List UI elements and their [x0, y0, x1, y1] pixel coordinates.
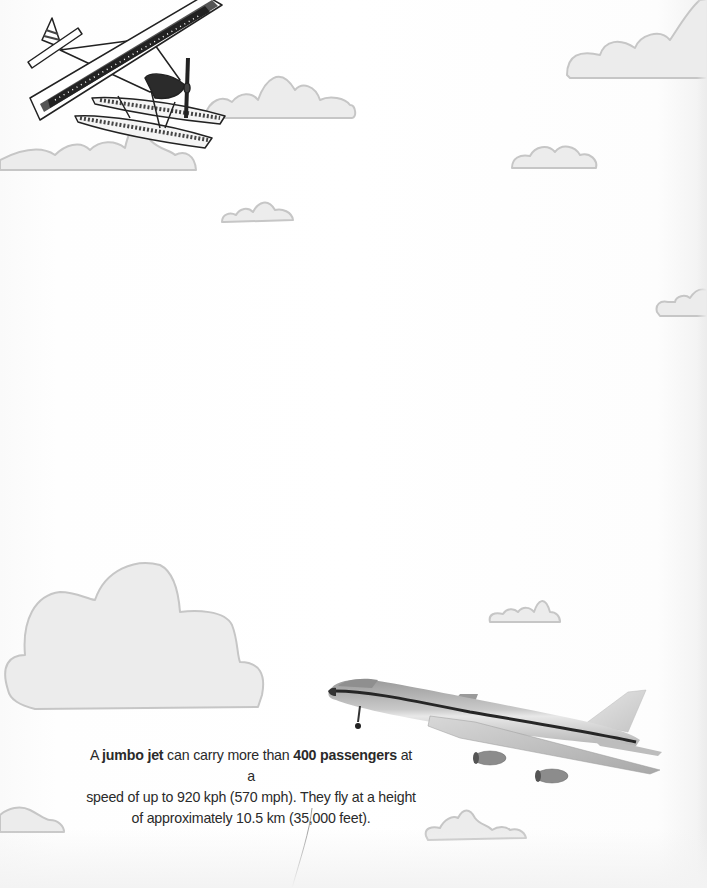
seaplane-illustration: [28, 0, 225, 148]
caption-text: A jumbo jet can carry more than 400 pass…: [86, 745, 416, 829]
caption-line-1: A jumbo jet can carry more than 400 pass…: [86, 745, 416, 787]
cloud-small-1: [222, 203, 293, 222]
book-page: A jumbo jet can carry more than 400 pass…: [0, 0, 707, 888]
page-edge-shadow: [697, 0, 707, 888]
cloud-small-2: [490, 601, 560, 622]
jet-nose-gear: [358, 706, 360, 722]
page-bottom-shade: [0, 828, 707, 888]
cloud-large-left: [5, 563, 263, 709]
caption-line-3: of approximately 10.5 km (35,000 feet).: [86, 808, 416, 829]
caption-line-2: speed of up to 920 kph (570 mph). They f…: [86, 787, 416, 808]
bold-400-passengers: 400 passengers: [293, 747, 397, 763]
cloud-right-small: [512, 147, 596, 168]
cloud-top-right: [567, 0, 707, 78]
cloud-top-middle: [205, 77, 355, 118]
bold-jumbo-jet: jumbo jet: [102, 747, 163, 763]
